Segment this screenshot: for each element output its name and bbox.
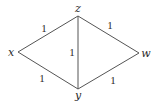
edge-weight-x-z: 1	[41, 22, 47, 34]
node-label-x: x	[8, 46, 15, 59]
edge-weight-y-w: 1	[110, 74, 116, 86]
edge-weight-x-y: 1	[39, 72, 45, 84]
node-label-z: z	[74, 2, 81, 15]
edge-y-w	[78, 53, 139, 89]
weighted-graph-diagram: 1 1 1 1 1 x z w y	[0, 0, 157, 106]
edge-weight-z-w: 1	[107, 19, 113, 31]
node-label-w: w	[141, 47, 151, 60]
edge-weight-z-y: 1	[69, 46, 75, 58]
node-label-y: y	[74, 89, 82, 102]
edges	[18, 16, 139, 89]
